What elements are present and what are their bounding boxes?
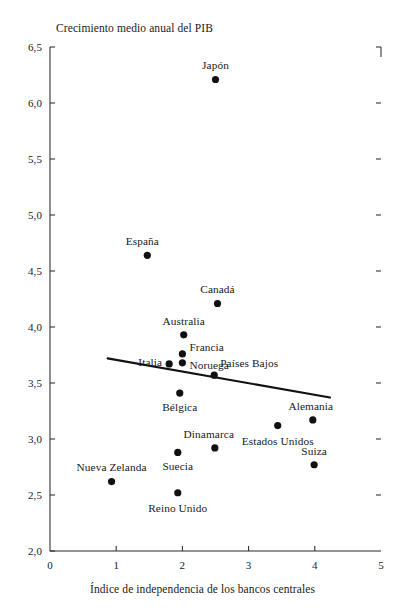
data-point bbox=[179, 350, 186, 357]
y-tick-label: 5,0 bbox=[8, 209, 42, 221]
y-tick-label: 2,0 bbox=[8, 545, 42, 557]
data-point bbox=[211, 372, 218, 379]
x-tick-label: 5 bbox=[378, 559, 384, 571]
point-label: Suecia bbox=[162, 462, 193, 473]
scatter-chart: Crecimiento medio anual del PIB 2,02,53,… bbox=[0, 0, 405, 613]
y-tick-label: 3,5 bbox=[8, 377, 42, 389]
x-axis-title: Índice de independencia de los bancos ce… bbox=[0, 583, 405, 595]
data-point bbox=[174, 449, 181, 456]
point-label: Suiza bbox=[301, 446, 327, 457]
data-point bbox=[212, 76, 219, 83]
axes bbox=[50, 47, 381, 551]
y-tick-label: 5,5 bbox=[8, 153, 42, 165]
data-point bbox=[108, 478, 115, 485]
plot-canvas bbox=[0, 0, 405, 613]
data-point bbox=[176, 389, 183, 396]
x-tick-label: 0 bbox=[47, 559, 53, 571]
data-point bbox=[311, 461, 318, 468]
data-point bbox=[214, 300, 221, 307]
point-label: España bbox=[126, 237, 159, 248]
point-label: Reino Unido bbox=[148, 503, 207, 514]
y-tick-label: 4,0 bbox=[8, 321, 42, 333]
point-label: Bélgica bbox=[162, 402, 197, 413]
data-point bbox=[274, 422, 281, 429]
point-label: Italia bbox=[0, 357, 162, 368]
x-tick-label: 4 bbox=[312, 559, 318, 571]
point-label: Australia bbox=[163, 316, 205, 327]
y-tick-label: 4,5 bbox=[8, 265, 42, 277]
x-tick-label: 3 bbox=[246, 559, 252, 571]
point-label: Dinamarca bbox=[184, 429, 234, 440]
data-point bbox=[211, 444, 218, 451]
point-label: Francia bbox=[189, 342, 224, 353]
data-point bbox=[179, 359, 186, 366]
point-label: Japón bbox=[202, 61, 229, 72]
y-tick-label: 3,0 bbox=[8, 433, 42, 445]
data-point bbox=[144, 252, 151, 259]
y-tick-label: 6,5 bbox=[8, 41, 42, 53]
x-tick-label: 1 bbox=[113, 559, 119, 571]
y-tick-label: 6,0 bbox=[8, 97, 42, 109]
data-point bbox=[174, 489, 181, 496]
point-label: Alemania bbox=[288, 401, 333, 412]
data-point bbox=[309, 416, 316, 423]
point-label: Países Bajos bbox=[220, 359, 278, 370]
point-label: Nueva Zelanda bbox=[77, 462, 147, 473]
x-tick-label: 2 bbox=[180, 559, 186, 571]
y-tick-label: 2,5 bbox=[8, 489, 42, 501]
point-label: Canadá bbox=[200, 285, 234, 296]
data-point bbox=[180, 331, 187, 338]
data-point bbox=[166, 360, 173, 367]
